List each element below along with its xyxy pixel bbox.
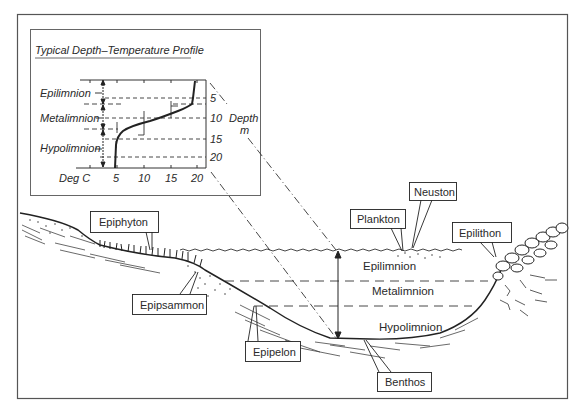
inset-zone-metalimnion: Metalimnion	[40, 112, 99, 124]
callout-epiphyton: Epiphyton	[99, 216, 148, 228]
callout-epilithon: Epilithon	[459, 227, 501, 239]
temp-tick-15: 15	[165, 172, 178, 184]
inset-zone-hypolimnion: Hypolimnion	[40, 142, 101, 154]
depth-tick-5: 5	[210, 92, 217, 104]
temp-tick-5: 5	[113, 172, 120, 184]
callout-neuston: Neuston	[414, 186, 455, 198]
callout-epipelon: Epipelon	[253, 346, 296, 358]
temp-tick-10: 10	[138, 172, 151, 184]
x-axis-label: Deg C	[59, 172, 90, 184]
inset-depth-temperature-profile: Typical Depth–Temperature Profile	[31, 30, 261, 196]
lake-layer-metalimnion: Metalimnion	[372, 285, 434, 297]
water-surface	[180, 249, 462, 251]
temp-tick-20: 20	[190, 172, 204, 184]
callout-plankton: Plankton	[357, 213, 400, 225]
depth-axis-label: Depth	[229, 112, 258, 124]
depth-tick-15: 15	[210, 133, 223, 145]
depth-arrow	[335, 251, 341, 339]
callout-benthos: Benthos	[385, 376, 426, 388]
lake-layer-epilimnion: Epilimnion	[363, 260, 416, 272]
depth-tick-20: 20	[209, 151, 223, 163]
callout-epipsammon: Epipsammon	[140, 299, 204, 311]
lake-zonation-diagram: Typical Depth–Temperature Profile	[0, 0, 582, 414]
callout-frames	[91, 183, 512, 392]
depth-tick-10: 10	[210, 112, 223, 124]
inset-title: Typical Depth–Temperature Profile	[35, 44, 204, 56]
lake-layer-hypolimnion: Hypolimnion	[379, 321, 442, 333]
depth-axis-unit: m	[240, 124, 249, 136]
inset-zone-epilimnion: Epilimnion	[40, 87, 91, 99]
